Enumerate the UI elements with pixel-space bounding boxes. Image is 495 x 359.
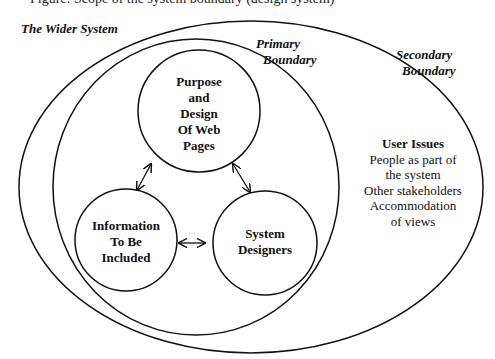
purpose-line: and <box>149 90 249 106</box>
user-issues-line: People as part of <box>343 152 483 168</box>
purpose-line: Purpose <box>149 74 249 90</box>
information-line: Information <box>76 218 176 234</box>
figure-caption: Figure: Scope of the system boundary (de… <box>30 0 334 7</box>
user-issues-line: the system <box>343 167 483 183</box>
primary-boundary-label-line1: Primary <box>256 37 300 50</box>
information-line: Included <box>76 250 176 266</box>
designers-line: System <box>215 226 315 242</box>
diagram-canvas: Figure: Scope of the system boundary (de… <box>0 0 495 359</box>
arrow-purpose-designers <box>233 164 250 192</box>
secondary-boundary-label-line2: Boundary <box>402 64 455 77</box>
arrow-purpose-information <box>137 164 151 190</box>
information-line: To Be <box>76 234 176 250</box>
user-issues-block: User Issues People as part of the system… <box>343 136 483 229</box>
user-issues-title: User Issues <box>343 136 483 152</box>
purpose-line: Of Web <box>149 122 249 138</box>
user-issues-line: of views <box>343 214 483 230</box>
purpose-line: Design <box>149 106 249 122</box>
information-node-label: Information To Be Included <box>76 218 176 266</box>
designers-node-label: System Designers <box>215 226 315 258</box>
primary-boundary-label-line2: Boundary <box>263 53 316 66</box>
purpose-node-label: Purpose and Design Of Web Pages <box>149 74 249 154</box>
secondary-boundary-label-line1: Secondary <box>396 48 452 61</box>
user-issues-line: Accommodation <box>343 198 483 214</box>
purpose-line: Pages <box>149 138 249 154</box>
user-issues-line: Other stakeholders <box>343 183 483 199</box>
wider-system-label: The Wider System <box>21 22 118 35</box>
designers-line: Designers <box>215 242 315 258</box>
